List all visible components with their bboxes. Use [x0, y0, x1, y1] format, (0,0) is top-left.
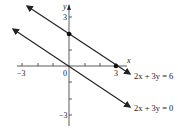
graph-of-parallel-lines: y x −3 0 3 3 −3 2x + 3y = 6 2x + 3y = 0: [0, 0, 178, 131]
x-axis-label: x: [126, 56, 131, 65]
tick-label-x-3: 3: [114, 69, 118, 78]
line-2x-3y-0: [13, 29, 130, 107]
equation-label-line1: 2x + 3y = 6: [134, 71, 173, 81]
x-axis: [17, 63, 127, 66]
tick-label-y-3: 3: [63, 13, 67, 22]
y-axis-arrow-icon: [67, 4, 71, 10]
tick-label-x-neg3: −3: [17, 69, 26, 78]
y-intercept-point: [67, 32, 72, 37]
x-intercept-point: [114, 64, 119, 69]
y-axis-label: y: [62, 2, 67, 11]
equation-label-line2: 2x + 3y = 0: [134, 103, 173, 113]
tick-label-origin: 0: [63, 69, 67, 78]
tick-label-y-neg3: −3: [59, 111, 68, 120]
line-2x-3y-6: [27, 6, 130, 74]
